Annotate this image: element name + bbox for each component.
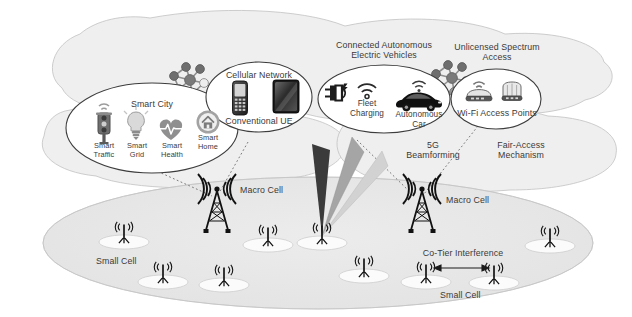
smart-city-title: Smart City bbox=[110, 99, 194, 109]
wifi-router-secondary-icon bbox=[502, 82, 522, 100]
co-tier-interference-annotation: Co-Tier Interference bbox=[410, 248, 516, 258]
smart-home-label: Smart Home bbox=[186, 134, 230, 151]
macro-cell-left-label: Macro Cell bbox=[240, 185, 300, 195]
unlicensed-spectrum-ellipse[interactable] bbox=[451, 69, 541, 129]
cellular-network-title: Cellular Network bbox=[212, 70, 306, 80]
feature-phone-icon bbox=[233, 81, 248, 115]
autonomous-car-label: Autonomous Car bbox=[390, 110, 448, 129]
beamforming-annotation: 5G Beamforming bbox=[400, 140, 466, 160]
fair-access-annotation: Fair-Access Mechanism bbox=[478, 140, 564, 160]
tablet-icon bbox=[273, 80, 299, 113]
unlicensed-spectrum-title: Unlicensed Spectrum Access bbox=[437, 42, 557, 62]
vehicles-title: Connected Autonomous Electric Vehicles bbox=[311, 40, 457, 60]
network-architecture-diagram: Smart City Smart Traffic Smart Grid Smar… bbox=[0, 0, 632, 317]
small-cell bbox=[200, 234, 244, 246]
conventional-ue-label: Conventional UE bbox=[210, 116, 308, 126]
small-cell-label-right: Small Cell bbox=[440, 290, 500, 300]
wifi-access-points-label: Wi-Fi Access Points bbox=[452, 108, 542, 118]
small-cell-label-left: Small Cell bbox=[96, 256, 156, 266]
macro-cell-right-label: Macro Cell bbox=[446, 195, 506, 205]
fleet-charging-label: Fleet Charging bbox=[340, 99, 394, 118]
